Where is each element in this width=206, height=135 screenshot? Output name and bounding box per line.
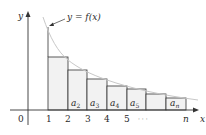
tick-n: n	[183, 114, 189, 124]
series-diagram: y x y = f(x) 0 1 2 3 4 5 · · · n a2 a3 a…	[0, 0, 206, 135]
tick-ellipsis: · · ·	[138, 115, 148, 122]
curve-label: y = f(x)	[66, 12, 101, 22]
tick-3: 3	[85, 114, 91, 124]
y-axis-label: y	[17, 11, 24, 21]
x-axis-label: x	[200, 114, 205, 124]
origin-label: 0	[18, 114, 24, 124]
x-axis-arrow-icon	[193, 108, 199, 113]
y-axis-arrow-icon	[26, 11, 31, 17]
tick-2: 2	[65, 114, 71, 124]
rectangle-6	[146, 94, 166, 110]
tick-4: 4	[104, 114, 110, 124]
tick-1: 1	[46, 114, 52, 124]
x-tick-labels: 1 2 3 4 5 · · · n	[46, 114, 189, 124]
rectangle-1	[48, 57, 68, 110]
tick-5: 5	[124, 114, 130, 124]
label-pointer-arrow-icon	[49, 23, 54, 27]
